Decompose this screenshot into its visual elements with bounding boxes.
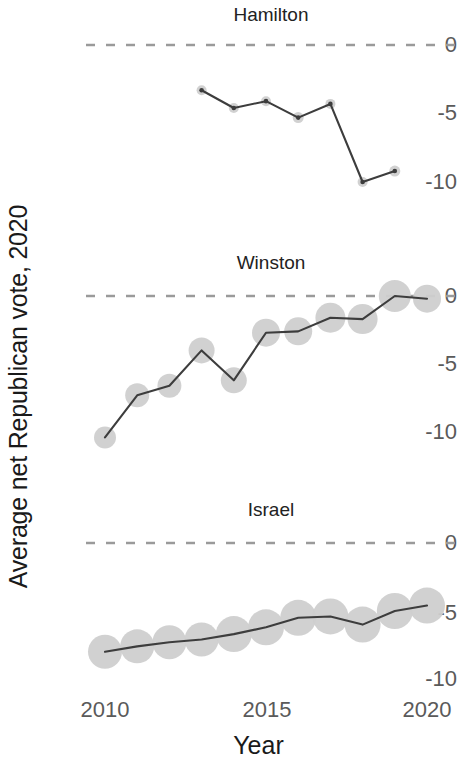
data-point-vertex [393,169,398,174]
plot-area-winston [0,248,457,488]
data-point-vertex [328,102,333,107]
x-tick-2015: 2015 [243,697,292,723]
data-point-vertex [296,115,301,120]
x-axis-title: Year [60,731,457,760]
facet-panel-winston: Winston 0 -5 -10 [0,248,457,488]
data-point-vertex [199,88,204,93]
x-tick-2020: 2020 [403,697,452,723]
x-tick-2010: 2010 [81,697,130,723]
series-line [105,296,427,437]
data-point-vertex [264,99,269,104]
series-line [202,90,395,182]
chart-root: Average net Republican vote, 2020 Hamilt… [0,0,457,765]
plot-area-hamilton [0,0,457,240]
data-point-vertex [232,106,237,111]
facet-panel-israel: Israel 0 -5 -10 [0,495,457,735]
data-point-vertex [360,180,365,185]
facet-panel-hamilton: Hamilton 0 -5 -10 [0,0,457,240]
plot-area-israel [0,495,457,735]
